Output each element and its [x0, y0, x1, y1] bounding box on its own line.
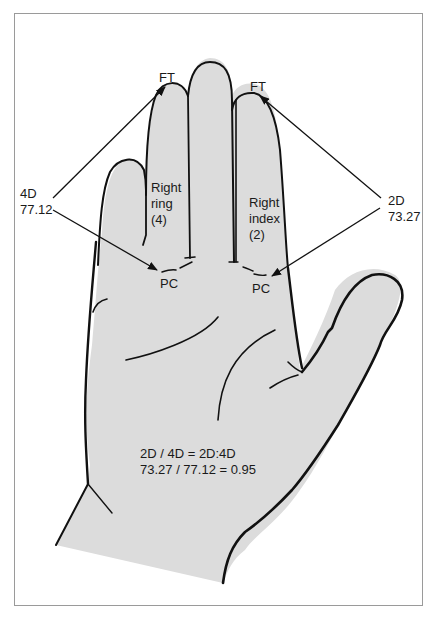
measurement-2d-label: 2D [388, 193, 405, 208]
ring-base-label: PC [160, 276, 178, 291]
ring-finger-label-line2: ring [151, 196, 173, 212]
ring-tip-label: FT [159, 70, 175, 85]
arrow-2d-to-index-base [272, 208, 380, 276]
measurement-4d-label: 4D [20, 186, 37, 201]
measurement-2d-value: 73.27 [388, 209, 421, 224]
ring-finger-label-line3: (4) [151, 212, 167, 228]
index-finger-label-line2: index [249, 211, 280, 227]
index-finger-label-line1: Right [249, 195, 279, 211]
formula-line1: 2D / 4D = 2D:4D [140, 446, 236, 461]
index-tip-label: FT [250, 79, 266, 94]
hand-illustration [0, 0, 435, 617]
index-finger-label-line3: (2) [249, 227, 265, 243]
measurement-4d-value: 77.12 [20, 202, 53, 217]
ring-finger-label-line1: Right [151, 180, 181, 196]
formula-line2: 73.27 / 77.12 = 0.95 [140, 462, 256, 477]
hand-silhouette [56, 58, 401, 583]
index-base-label: PC [252, 281, 270, 296]
